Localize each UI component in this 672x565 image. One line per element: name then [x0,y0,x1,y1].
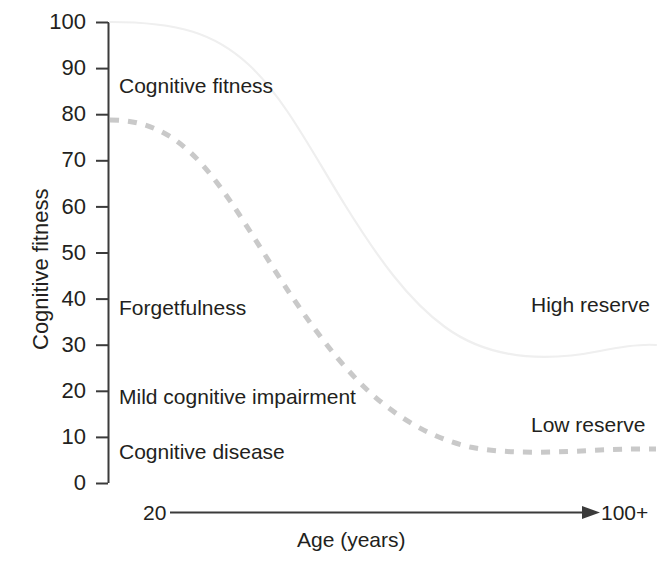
y-tick-label-90: 90 [30,57,86,79]
x-axis-arrow [170,506,600,519]
y-tick-label-40: 40 [30,288,86,310]
y-tick-label-60: 60 [30,196,86,218]
y-tick-label-70: 70 [30,149,86,171]
annotation-mild-cognitive-impairment: Mild cognitive impairment [119,386,356,407]
y-tick-label-0: 0 [30,472,86,494]
y-tick-label-30: 30 [30,334,86,356]
annotation-low-reserve: Low reserve [531,414,645,435]
y-tick-label-10: 10 [30,426,86,448]
x-axis-title: Age (years) [297,529,406,550]
annotation-cognitive-fitness: Cognitive fitness [119,75,273,96]
annotation-forgetfulness: Forgetfulness [119,297,246,318]
x-axis-start-label: 20 [143,502,166,523]
chart-plot-area [0,0,672,565]
y-tick-label-20: 20 [30,380,86,402]
y-tick-label-80: 80 [30,103,86,125]
y-axis-ticks [96,23,108,484]
cognitive-fitness-chart: Cognitive fitness 100 90 80 70 60 50 40 … [0,0,672,565]
annotation-cognitive-disease: Cognitive disease [119,441,285,462]
y-tick-label-50: 50 [30,242,86,264]
annotation-high-reserve: High reserve [531,294,650,315]
y-tick-label-100: 100 [30,11,86,33]
x-axis-end-label: 100+ [601,502,648,523]
